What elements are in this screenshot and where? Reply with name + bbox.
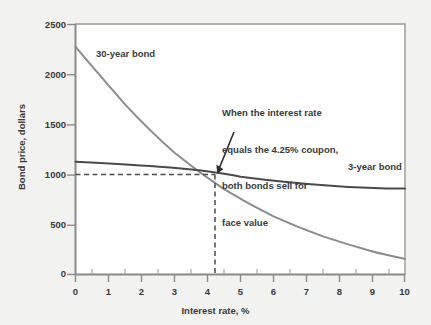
- series-label-30-year-bond: 30-year bond: [96, 48, 155, 60]
- series-label-3-year-bond: 3-year bond: [348, 161, 402, 173]
- x-tick-label: 1: [97, 286, 121, 298]
- x-axis-major-ticks: [76, 275, 405, 282]
- annotation-line: When the interest rate: [222, 107, 338, 119]
- annotation-line: equals the 4.25% coupon,: [222, 144, 338, 156]
- x-axis-title: Interest rate, %: [0, 305, 431, 317]
- y-tick-label: 1000: [30, 169, 66, 181]
- x-tick-label: 2: [130, 286, 154, 298]
- annotation-line: face value: [222, 217, 338, 229]
- y-tick-label: 2500: [30, 19, 66, 31]
- y-tick-label: 2000: [30, 69, 66, 81]
- y-tick-label: 0: [30, 268, 66, 280]
- x-tick-label: 5: [229, 286, 253, 298]
- x-tick-label: 3: [163, 286, 187, 298]
- y-axis-title: Bond price, dollars: [16, 104, 27, 190]
- x-tick-label: 10: [393, 286, 417, 298]
- annotation-line: both bonds sell for: [222, 180, 338, 192]
- y-tick-label: 500: [30, 219, 66, 231]
- x-tick-label: 8: [328, 286, 352, 298]
- x-tick-label: 6: [262, 286, 286, 298]
- bond-price-chart-figure: 2500 2000 1500 1000 500 0 0 1 2 3 4 5 6 …: [0, 0, 431, 325]
- x-tick-label: 0: [64, 286, 88, 298]
- x-tick-label: 9: [361, 286, 385, 298]
- coupon-annotation-text: When the interest rate equals the 4.25% …: [222, 83, 338, 253]
- y-axis-title-wrap: Bond price, dollars: [14, 92, 28, 202]
- y-tick-label: 1500: [30, 119, 66, 131]
- x-tick-label: 7: [295, 286, 319, 298]
- x-tick-label: 4: [196, 286, 220, 298]
- y-axis-ticks: [67, 25, 75, 275]
